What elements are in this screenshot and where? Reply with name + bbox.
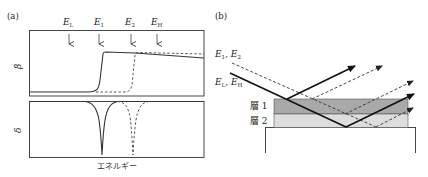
panel-b: (b) 層 1 層 2 E1, E2 EL, EH (214, 11, 416, 153)
layer-1-label: 層 1 (250, 101, 268, 111)
delta-plot-frame (30, 102, 205, 158)
panel-a-label: (a) (7, 11, 19, 21)
energy-marker-label: EH (150, 17, 163, 28)
beta-plot: β (13, 31, 204, 97)
beta-solid-curve (30, 52, 204, 92)
solid-beam-label: EL, EH (214, 77, 243, 88)
beta-plot-frame (30, 31, 205, 97)
panel-b-label: (b) (215, 11, 227, 21)
solid-reflected-ray-surface (287, 66, 355, 99)
delta-plot: δ (13, 102, 204, 158)
panel-a: (a) EL E1 E2 EH β δ (7, 11, 204, 171)
energy-marker-label: E2 (124, 17, 135, 28)
energy-marker-label: E1 (93, 17, 104, 28)
figure-canvas: (a) EL E1 E2 EH β δ (0, 0, 428, 177)
beta-dashed-curve (96, 53, 204, 93)
energy-marker-label: EL (62, 17, 74, 28)
x-axis-label: エネルギー (97, 162, 137, 171)
substrate (265, 127, 416, 153)
layer-2-label: 層 2 (250, 116, 268, 126)
delta-solid-curve (30, 102, 204, 156)
beta-axis-label: β (13, 64, 23, 70)
delta-axis-label: δ (13, 128, 23, 133)
dashed-beam-label: E1, E2 (214, 49, 241, 60)
